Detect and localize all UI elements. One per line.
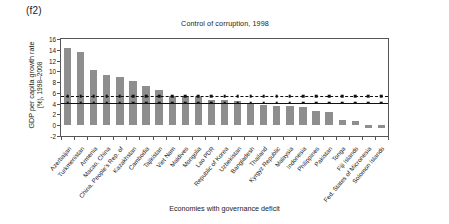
y-axis-tick-label: -2	[50, 133, 56, 140]
reference-line-marker	[289, 101, 292, 104]
reference-line-marker	[210, 95, 213, 98]
reference-line-marker	[380, 95, 383, 98]
reference-line-marker	[145, 101, 148, 104]
reference-line-marker	[223, 101, 226, 104]
x-axis-tick	[375, 136, 376, 140]
bar	[247, 103, 254, 125]
bar	[352, 121, 359, 125]
reference-line-marker	[171, 101, 174, 104]
x-axis-tick-labels: AzerbaijanTurkmenistanArmeniaMacao, Chin…	[60, 143, 389, 198]
y-axis-tick-label: 4	[52, 100, 56, 107]
x-axis-tick	[153, 136, 154, 140]
reference-line-marker	[79, 101, 82, 104]
y-axis-tick-label: 6	[52, 89, 56, 96]
bar	[77, 52, 84, 125]
reference-line-marker	[262, 95, 265, 98]
reference-line-marker	[158, 95, 161, 98]
y-axis-title: GDP per capita growth rate (%), 1998–200…	[28, 32, 45, 138]
reference-line-marker	[79, 95, 82, 98]
reference-line-marker	[249, 101, 252, 104]
bar-series	[61, 39, 388, 136]
reference-line-marker	[328, 95, 331, 98]
x-axis-tick	[139, 136, 140, 140]
x-axis-tick	[61, 136, 62, 140]
y-axis-tick-label: 0	[52, 122, 56, 129]
reference-line-marker	[367, 101, 370, 104]
reference-line-marker	[276, 95, 279, 98]
x-axis-tick	[362, 136, 363, 140]
x-axis-tick	[349, 136, 350, 140]
y-axis-tick-label: 8	[52, 79, 56, 86]
bar	[103, 75, 110, 125]
x-axis-title: Economies with governance deficit	[60, 204, 389, 213]
x-axis-tick	[244, 136, 245, 140]
y-axis-tick-label: 16	[49, 36, 56, 43]
reference-line-marker	[184, 95, 187, 98]
chart-title: Control of corruption, 1998	[60, 19, 390, 28]
reference-line-marker	[302, 95, 305, 98]
x-axis-tick	[126, 136, 127, 140]
x-axis-tick	[100, 136, 101, 140]
reference-line-marker	[197, 95, 200, 98]
reference-line-marker	[92, 101, 95, 104]
reference-line-marker	[132, 101, 135, 104]
y-axis-tick-label: 10	[49, 68, 56, 75]
reference-line-marker	[197, 101, 200, 104]
x-axis-tick	[87, 136, 88, 140]
reference-line-marker	[249, 95, 252, 98]
reference-line-marker	[262, 101, 265, 104]
x-axis-tick	[283, 136, 284, 140]
x-axis-tick	[192, 136, 193, 140]
bar	[299, 107, 306, 125]
y-axis-tick-label: 2	[52, 111, 56, 118]
reference-line-marker	[276, 101, 279, 104]
panel-label: (f2)	[26, 5, 42, 16]
x-axis-tick	[270, 136, 271, 140]
figure-container: (f2) Control of corruption, 1998 GDP per…	[0, 0, 449, 224]
reference-line-marker	[236, 101, 239, 104]
bar	[260, 105, 267, 125]
x-axis-tick	[205, 136, 206, 140]
bar	[208, 100, 215, 125]
reference-line-marker	[158, 101, 161, 104]
x-axis-tick	[113, 136, 114, 140]
reference-line-marker	[145, 95, 148, 98]
reference-line-marker	[119, 95, 122, 98]
reference-line-marker	[171, 95, 174, 98]
reference-line-marker	[289, 95, 292, 98]
y-axis-tick-label: 14	[49, 46, 56, 53]
reference-line-marker	[92, 95, 95, 98]
reference-line-marker	[367, 95, 370, 98]
reference-line-marker	[105, 101, 108, 104]
y-axis-title-line2: (%), 1998–2008	[36, 32, 44, 138]
bar	[90, 70, 97, 126]
reference-line-marker	[66, 101, 69, 104]
bar	[286, 106, 293, 125]
y-axis-title-wrapper: GDP per capita growth rate (%), 1998–200…	[16, 32, 30, 138]
x-axis-tick	[310, 136, 311, 140]
x-axis-tick	[388, 136, 389, 140]
bar	[221, 100, 228, 125]
bar	[234, 101, 241, 125]
bar	[169, 96, 176, 126]
x-axis-tick	[74, 136, 75, 140]
bar	[312, 111, 319, 125]
x-axis-tick	[323, 136, 324, 140]
reference-line-marker	[341, 101, 344, 104]
reference-line-marker	[302, 101, 305, 104]
bar	[365, 125, 372, 128]
reference-line-marker	[184, 101, 187, 104]
reference-line-marker	[223, 95, 226, 98]
bar	[339, 120, 346, 125]
x-axis-tick	[231, 136, 232, 140]
reference-line-marker	[119, 101, 122, 104]
plot-area: -20246810121416	[60, 38, 389, 137]
reference-line-marker	[132, 95, 135, 98]
x-axis-tick	[166, 136, 167, 140]
reference-line-marker	[380, 101, 383, 104]
x-axis-tick	[257, 136, 258, 140]
reference-line-marker	[236, 95, 239, 98]
reference-line-marker	[328, 101, 331, 104]
reference-line-marker	[315, 101, 318, 104]
x-axis-tick	[179, 136, 180, 140]
